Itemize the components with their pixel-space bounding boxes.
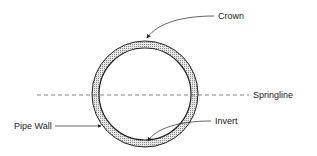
invert-label: Invert — [215, 116, 238, 126]
pipe-wall-ring — [92, 41, 198, 147]
crown-leader-arrow — [147, 16, 214, 38]
crown-label: Crown — [218, 11, 244, 21]
springline-label: Springline — [253, 90, 293, 100]
pipe-wall-label: Pipe Wall — [14, 121, 52, 131]
pipe-diagram — [0, 0, 317, 156]
